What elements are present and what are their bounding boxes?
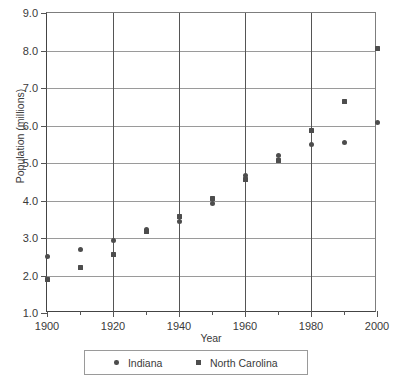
legend-item: Indiana [114, 357, 162, 369]
figure-footnote [0, 381, 395, 390]
y-axis-tick-label: 9.0 [23, 7, 38, 19]
x-axis-minor-tick [278, 311, 279, 315]
data-point [375, 120, 380, 125]
legend-label: Indiana [128, 357, 162, 369]
y-axis-tick-label: 7.0 [23, 82, 38, 94]
data-point [243, 177, 248, 182]
y-axis-tick [41, 13, 47, 14]
y-axis-tick [41, 276, 47, 277]
legend-marker-square-icon [196, 360, 201, 365]
x-axis-tick-label: 1900 [35, 320, 59, 332]
x-gridline [179, 13, 180, 311]
x-axis-minor-tick [344, 311, 345, 315]
data-point [276, 158, 281, 163]
x-gridline [311, 13, 312, 311]
x-gridline [113, 13, 114, 311]
x-axis-tick-label: 1940 [167, 320, 191, 332]
x-axis-title: Year [46, 332, 376, 344]
y-gridline [47, 51, 375, 52]
y-axis-tick-label: 6.0 [23, 120, 38, 132]
plot-inner [47, 13, 375, 311]
y-gridline [47, 163, 375, 164]
x-axis-tick-label: 2000 [365, 320, 389, 332]
data-point [177, 219, 182, 224]
y-axis-tick-label: 5.0 [23, 157, 38, 169]
y-axis-tick [41, 163, 47, 164]
x-axis-tick-label: 1980 [299, 320, 323, 332]
y-axis-tick [41, 126, 47, 127]
x-axis-tick-label: 1960 [233, 320, 257, 332]
x-axis-tick [179, 311, 180, 317]
x-axis-minor-tick [80, 311, 81, 315]
chart-legend: IndianaNorth Carolina [84, 350, 308, 375]
x-axis-minor-tick [146, 311, 147, 315]
x-axis-tick [245, 311, 246, 317]
data-point [177, 214, 182, 219]
data-point [45, 254, 50, 259]
y-axis-tick-label: 8.0 [23, 45, 38, 57]
x-gridline [245, 13, 246, 311]
x-axis-tick [311, 311, 312, 317]
legend-marker-circle-icon [114, 360, 119, 365]
y-axis-tick [41, 88, 47, 89]
data-point [342, 140, 347, 145]
y-axis-tick-label: 4.0 [23, 195, 38, 207]
y-gridline [47, 276, 375, 277]
y-gridline [47, 238, 375, 239]
y-gridline [47, 88, 375, 89]
legend-label: North Carolina [210, 357, 278, 369]
scatter-chart-figure: Population (millions) 1.02.03.04.05.06.0… [0, 0, 395, 390]
x-axis-tick [47, 311, 48, 317]
x-axis-minor-tick [212, 311, 213, 315]
x-axis-tick-label: 1920 [101, 320, 125, 332]
y-axis-tick-label: 3.0 [23, 232, 38, 244]
y-axis-tick [41, 238, 47, 239]
x-axis-tick [113, 311, 114, 317]
data-point [78, 265, 83, 270]
data-point [111, 238, 116, 243]
y-axis-tick-label: 2.0 [23, 270, 38, 282]
data-point [210, 196, 215, 201]
data-point [375, 46, 380, 51]
x-axis-tick [377, 311, 378, 317]
legend-item: North Carolina [196, 357, 277, 369]
data-point [78, 247, 83, 252]
y-axis-tick-label: 1.0 [23, 307, 38, 319]
y-gridline [47, 126, 375, 127]
data-point [144, 229, 149, 234]
data-point [309, 142, 314, 147]
data-point [309, 128, 314, 133]
data-point [210, 201, 215, 206]
data-point [45, 277, 50, 282]
y-axis-tick [41, 51, 47, 52]
plot-area: 1.02.03.04.05.06.07.08.09.01900192019401… [46, 12, 376, 312]
data-point [111, 252, 116, 257]
y-axis-title: Population (millions) [14, 56, 26, 216]
data-point [342, 99, 347, 104]
y-axis-tick [41, 201, 47, 202]
